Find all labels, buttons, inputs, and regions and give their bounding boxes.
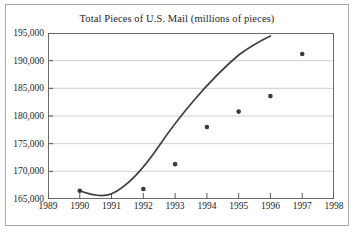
y-tick-label: 175,000: [13, 139, 44, 149]
x-tick-label: 1990: [70, 201, 89, 211]
gridlines: [48, 33, 334, 171]
data-point: [141, 187, 146, 192]
y-tick-label: 195,000: [13, 28, 44, 38]
plot-area: [48, 33, 334, 199]
data-point: [77, 188, 82, 193]
y-tick-label: 190,000: [13, 56, 44, 66]
x-tick-label: 1997: [293, 201, 312, 211]
x-tick-label: 1993: [166, 201, 185, 211]
x-tick-label: 1996: [261, 201, 280, 211]
chart-title: Total Pieces of U.S. Mail (millions of p…: [0, 13, 354, 24]
x-tick-label: 1995: [229, 201, 248, 211]
data-point: [236, 109, 241, 114]
data-point: [205, 125, 210, 130]
data-point: [300, 52, 305, 57]
data-point: [173, 162, 178, 167]
data-point: [268, 94, 273, 99]
x-tick-label: 1991: [102, 201, 121, 211]
x-tick-label: 1994: [197, 201, 216, 211]
x-tick-label: 1998: [325, 201, 344, 211]
y-axis-tick-labels: 165,000 170,000 175,000 180,000 185,000 …: [0, 33, 44, 199]
plot-svg: [48, 33, 334, 199]
x-tick-label: 1989: [39, 201, 58, 211]
x-tick-label: 1992: [134, 201, 153, 211]
chart-figure: Total Pieces of U.S. Mail (millions of p…: [0, 0, 354, 236]
y-tick-label: 180,000: [13, 111, 44, 121]
x-axis-tick-labels: 1989 1990 1991 1992 1993 1994 1995 1996 …: [48, 201, 334, 217]
y-tick-label: 185,000: [13, 83, 44, 93]
y-tick-label: 170,000: [13, 166, 44, 176]
